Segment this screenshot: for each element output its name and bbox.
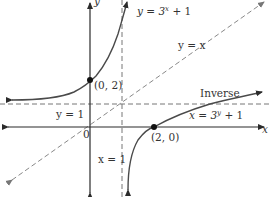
inverse-caption: Inverse [200, 88, 240, 99]
inverse-curve-label: x = 3y + 1 [189, 110, 243, 121]
graph-figure: y x 0 y = 3x + 1 y = x Inverse x = 3y + … [0, 0, 269, 197]
y-axis-label: y [94, 0, 100, 7]
origin-label: 0 [83, 129, 90, 140]
inverse-curve [128, 92, 262, 190]
point-2-0 [151, 124, 157, 130]
horizontal-asymptote-label: y = 1 [56, 109, 84, 120]
point-label-2-0: (2, 0) [151, 132, 179, 143]
x-axis-label: x [262, 124, 268, 135]
point-label-0-2: (0, 2) [94, 80, 122, 91]
identity-line-label: y = x [178, 40, 205, 51]
point-0-2 [87, 77, 93, 83]
vertical-asymptote-label: x = 1 [98, 154, 126, 165]
original-curve-label: y = 3x + 1 [137, 6, 191, 17]
